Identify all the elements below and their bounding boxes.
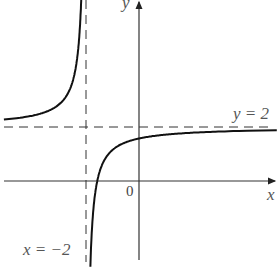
- v-asymptote-label: x = −2: [23, 241, 71, 258]
- graph-canvas: [0, 0, 278, 273]
- x-axis-label: x: [267, 186, 275, 203]
- h-asymptote-label: y = 2: [233, 105, 269, 122]
- graph-figure: y x 0 y = 2 x = −2: [0, 0, 278, 273]
- y-axis-label: y: [122, 0, 130, 11]
- curve-right-branch: [90, 130, 276, 267]
- origin-label: 0: [126, 184, 134, 199]
- curve-left-branch: [4, 0, 81, 120]
